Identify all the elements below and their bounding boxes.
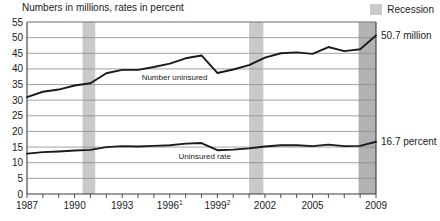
x-axis-tick-label: 2009	[365, 200, 388, 211]
y-axis-tick-label: 10	[12, 157, 24, 168]
x-axis-tick-label: 1990	[63, 200, 86, 211]
y-axis-tick-label: 0	[17, 189, 23, 200]
chart-container: Numbers in millions, rates in percent Re…	[0, 0, 440, 221]
end-label-number-uninsured: 50.7 million	[381, 30, 432, 41]
x-axis-tick-label: 19961	[157, 199, 183, 211]
y-axis-tick-label: 45	[12, 48, 24, 59]
x-axis-tick-label: 2002	[254, 200, 277, 211]
end-label-uninsured-rate: 16.7 percent	[381, 136, 437, 147]
x-axis-tick-label: 19992	[204, 199, 230, 211]
y-axis-tick-label: 55	[12, 17, 24, 28]
y-axis-tick-label: 50	[12, 32, 24, 43]
recession-band	[249, 22, 263, 194]
y-axis-tick-label: 15	[12, 142, 24, 153]
x-axis-tick-label: 2005	[301, 200, 324, 211]
y-axis-tick-label: 35	[12, 79, 24, 90]
y-axis-tick-label: 5	[17, 173, 23, 184]
y-axis-tick-label: 30	[12, 95, 24, 106]
y-axis-tick-label: 20	[12, 126, 24, 137]
x-axis-tick-label: 1993	[111, 200, 134, 211]
chart-plot-area: 0510152025303540455055198719901993199611…	[0, 0, 440, 221]
series-label-uninsured-rate: Uninsured rate	[178, 152, 231, 161]
y-axis-tick-label: 40	[12, 63, 24, 74]
recession-band	[83, 22, 96, 194]
series-label-number-uninsured: Number uninsured	[142, 73, 208, 82]
x-axis-tick-label: 1987	[16, 200, 39, 211]
y-axis-tick-label: 25	[12, 110, 24, 121]
series-line-number-uninsured	[27, 35, 376, 97]
